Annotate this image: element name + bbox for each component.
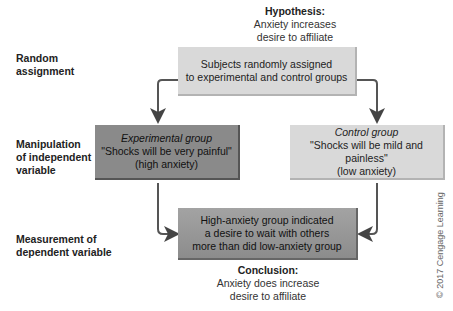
assignment-box: Subjects randomly assigned to experiment… [178,47,357,96]
conclusion: Conclusion: Anxiety does increase desire… [203,264,333,303]
conclusion-title: Conclusion: [203,264,333,277]
experimental-group-box: Experimental group "Shocks will be very … [95,125,240,180]
control-group-title: Control group [335,126,399,139]
experimental-group-title: Experimental group [121,132,212,145]
result-box: High-anxiety group indicated a desire to… [178,208,358,260]
control-group-box: Control group "Shocks will be mild and p… [290,125,445,180]
copyright-notice: © 2017 Cengage Learning [435,192,445,298]
